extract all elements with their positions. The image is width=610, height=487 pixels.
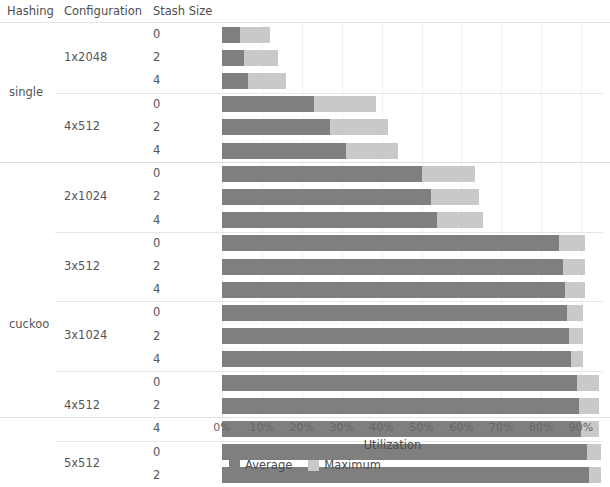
legend-item-maximum[interactable]: Maximum xyxy=(308,458,381,472)
column-header-stash-size: Stash Size xyxy=(153,4,212,20)
x-tick-90%: 90% xyxy=(569,421,593,434)
legend-label: Average xyxy=(245,458,292,472)
x-tick-60%: 60% xyxy=(449,421,473,434)
stash-size-label: 0 xyxy=(153,93,183,116)
x-tick-40%: 40% xyxy=(369,421,393,434)
bar-average xyxy=(222,259,563,275)
bar-average xyxy=(222,282,565,298)
x-tick-10%: 10% xyxy=(250,421,274,434)
chart-row: 0 xyxy=(0,162,610,185)
bar-average xyxy=(222,119,330,135)
bar-average xyxy=(222,73,248,89)
x-axis-baseline xyxy=(0,417,610,418)
chart-row: 0 xyxy=(0,232,610,255)
configuration-label: 2x1024 xyxy=(64,189,144,203)
x-tick-50%: 50% xyxy=(409,421,433,434)
plot-area: 0241x20480244x512single0242x10240243x512… xyxy=(0,23,610,417)
x-tick-0%: 0% xyxy=(213,421,230,434)
bar-average xyxy=(222,235,559,251)
bar-average xyxy=(222,27,240,43)
stash-size-label: 0 xyxy=(153,23,183,46)
stash-size-label: 4 xyxy=(153,139,183,162)
x-axis-title: Utilization xyxy=(0,438,610,452)
bar-average xyxy=(222,421,581,437)
chart-row: 0 xyxy=(0,23,610,46)
legend-swatch-icon xyxy=(229,460,240,471)
configuration-label: 3x512 xyxy=(64,259,144,273)
stash-size-label: 2 xyxy=(153,185,183,208)
stash-size-label: 2 xyxy=(153,255,183,278)
stash-size-label: 4 xyxy=(153,348,183,371)
stash-size-label: 4 xyxy=(153,69,183,92)
configuration-label: 3x1024 xyxy=(64,328,144,342)
legend-item-average[interactable]: Average xyxy=(229,458,292,472)
hashing-label: cuckoo xyxy=(9,317,63,331)
chart-row: 4 xyxy=(0,278,610,301)
bar-average xyxy=(222,351,571,367)
x-tick-30%: 30% xyxy=(329,421,353,434)
bar-average xyxy=(222,189,431,205)
chart-row: 0 xyxy=(0,301,610,324)
bar-average xyxy=(222,398,579,414)
stash-size-label: 4 xyxy=(153,278,183,301)
bar-average xyxy=(222,166,422,182)
bar-average xyxy=(222,50,244,66)
bar-average xyxy=(222,375,577,391)
chart-row: 0 xyxy=(0,93,610,116)
chart-row: 4 xyxy=(0,69,610,92)
x-tick-80%: 80% xyxy=(529,421,553,434)
column-header-hashing: Hashing xyxy=(7,4,54,20)
configuration-label: 4x512 xyxy=(64,119,144,133)
chart-row: 4 xyxy=(0,139,610,162)
stash-size-label: 2 xyxy=(153,394,183,417)
stash-size-label: 2 xyxy=(153,46,183,69)
configuration-label: 1x2048 xyxy=(64,50,144,64)
stash-size-label: 2 xyxy=(153,325,183,348)
hashing-label: single xyxy=(9,85,63,99)
legend-label: Maximum xyxy=(324,458,381,472)
configuration-label: 4x512 xyxy=(64,398,144,412)
chart-row: 4 xyxy=(0,348,610,371)
bar-average xyxy=(222,305,567,321)
x-tick-70%: 70% xyxy=(489,421,513,434)
chart-row: 4 xyxy=(0,209,610,232)
bar-average xyxy=(222,143,346,159)
bar-average xyxy=(222,96,314,112)
bar-average xyxy=(222,212,437,228)
stash-size-label: 2 xyxy=(153,116,183,139)
bar-average xyxy=(222,328,569,344)
chart-row: 0 xyxy=(0,371,610,394)
stash-size-label: 0 xyxy=(153,301,183,324)
x-tick-20%: 20% xyxy=(290,421,314,434)
stash-size-label: 4 xyxy=(153,209,183,232)
stash-size-label: 0 xyxy=(153,162,183,185)
legend-swatch-icon xyxy=(308,460,319,471)
column-header-configuration: Configuration xyxy=(64,4,142,20)
stash-size-label: 0 xyxy=(153,232,183,255)
legend: AverageMaximum xyxy=(0,456,610,474)
stash-size-label: 0 xyxy=(153,371,183,394)
